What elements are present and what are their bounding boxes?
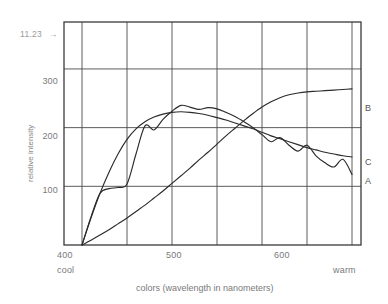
plot-frame [64,22,361,245]
plot-border [64,22,361,245]
figure-container: 11.23 → relative intensity 300 200 100 4… [0,0,388,304]
gridlines [64,22,361,245]
spectral-power-distribution-chart [0,0,388,304]
